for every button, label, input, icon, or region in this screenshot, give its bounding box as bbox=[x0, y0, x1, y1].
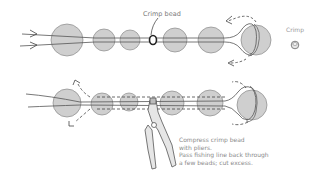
instruction-line: with pliers. bbox=[179, 144, 269, 152]
crimp-bead bbox=[150, 36, 157, 45]
bead bbox=[197, 90, 223, 116]
bead bbox=[51, 24, 83, 56]
top-row-stringing bbox=[20, 16, 271, 66]
top-row-beads bbox=[51, 24, 271, 56]
bead bbox=[120, 30, 140, 50]
crimp-sample-icon bbox=[291, 41, 299, 49]
crimp-bead-label: Crimp bead bbox=[143, 11, 181, 18]
bead bbox=[53, 89, 81, 117]
instruction-line: Pass fishing line back through bbox=[179, 151, 269, 159]
crimp-label: Crimp bbox=[286, 27, 304, 33]
crimp-bead-leader-line bbox=[151, 18, 158, 35]
bead bbox=[91, 93, 113, 115]
instruction-line: Compress crimp bead bbox=[179, 136, 269, 144]
bead bbox=[93, 29, 115, 51]
arrow-heads bbox=[226, 16, 234, 66]
bead bbox=[198, 27, 224, 53]
end-bead bbox=[237, 90, 267, 120]
instructions-caption: Compress crimp bead with pliers. Pass fi… bbox=[179, 136, 269, 166]
instruction-line: a few beads; cut excess. bbox=[179, 159, 269, 167]
bead bbox=[163, 28, 187, 52]
bead bbox=[160, 91, 184, 115]
crimp-bead-diagram bbox=[0, 0, 322, 176]
